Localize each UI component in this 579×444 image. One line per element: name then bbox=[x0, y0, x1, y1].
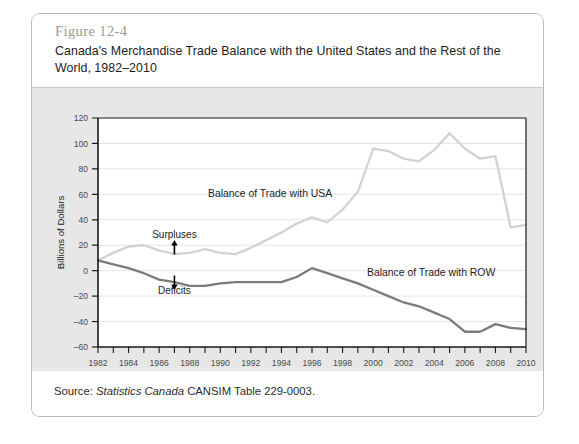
xtick-label-1998: 1998 bbox=[333, 358, 352, 368]
source-publisher: Statistics Canada bbox=[96, 385, 184, 397]
ytick-label-80: 80 bbox=[78, 164, 88, 174]
xtick-label-1986: 1986 bbox=[150, 358, 169, 368]
xtick-label-1988: 1988 bbox=[180, 358, 199, 368]
annotation-surpluses: Surpluses bbox=[152, 229, 196, 240]
ytick-label--40: –40 bbox=[74, 317, 89, 327]
source-reference: CANSIM Table 229-0003. bbox=[184, 385, 315, 397]
chart-plot-area: –60–40–200204060801001201982198419861988… bbox=[32, 87, 543, 372]
trade-balance-line-chart: –60–40–200204060801001201982198419861988… bbox=[32, 88, 543, 371]
xtick-label-1982: 1982 bbox=[88, 358, 107, 368]
xtick-label-1992: 1992 bbox=[241, 358, 260, 368]
ytick-label-20: 20 bbox=[78, 240, 88, 250]
figure-card: Figure 12-4 Canada's Merchandise Trade B… bbox=[31, 13, 544, 417]
xtick-label-2004: 2004 bbox=[425, 358, 444, 368]
source-prefix: Source: bbox=[54, 385, 96, 397]
xtick-label-2008: 2008 bbox=[486, 358, 505, 368]
xtick-label-2002: 2002 bbox=[394, 358, 413, 368]
xtick-label-2010: 2010 bbox=[516, 358, 535, 368]
xtick-label-1990: 1990 bbox=[211, 358, 230, 368]
figure-source: Source: Statistics Canada CANSIM Table 2… bbox=[32, 371, 543, 416]
annotation-balance-of-trade-with-row: Balance of Trade with ROW bbox=[367, 267, 495, 278]
xtick-label-1994: 1994 bbox=[272, 358, 291, 368]
ytick-label--60: –60 bbox=[74, 342, 89, 352]
xtick-label-2006: 2006 bbox=[455, 358, 474, 368]
ytick-label-0: 0 bbox=[83, 266, 88, 276]
annotation-balance-of-trade-with-usa: Balance of Trade with USA bbox=[208, 188, 332, 199]
y-axis-title: Billions of Dollars bbox=[55, 196, 66, 270]
ytick-label-60: 60 bbox=[78, 190, 88, 200]
xtick-label-1984: 1984 bbox=[119, 358, 138, 368]
ytick-label--20: –20 bbox=[74, 291, 89, 301]
xtick-label-1996: 1996 bbox=[302, 358, 321, 368]
figure-title: Canada's Merchandise Trade Balance with … bbox=[55, 43, 521, 76]
ytick-label-120: 120 bbox=[74, 113, 89, 123]
figure-header: Figure 12-4 Canada's Merchandise Trade B… bbox=[32, 14, 543, 87]
figure-number: Figure 12-4 bbox=[55, 23, 521, 40]
xtick-label-2000: 2000 bbox=[364, 358, 383, 368]
ytick-label-40: 40 bbox=[78, 215, 88, 225]
ytick-label-100: 100 bbox=[74, 139, 89, 149]
